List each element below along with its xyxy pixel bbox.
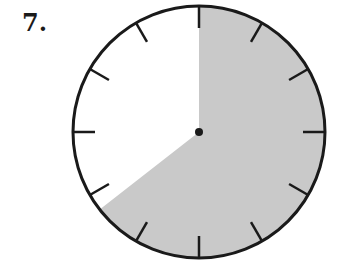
- tick-mark: [90, 69, 109, 80]
- tick-mark: [90, 184, 109, 195]
- center-dot: [195, 128, 203, 136]
- shaded-sector: [100, 6, 325, 258]
- clock-diagram: [0, 0, 347, 270]
- tick-mark: [136, 23, 147, 42]
